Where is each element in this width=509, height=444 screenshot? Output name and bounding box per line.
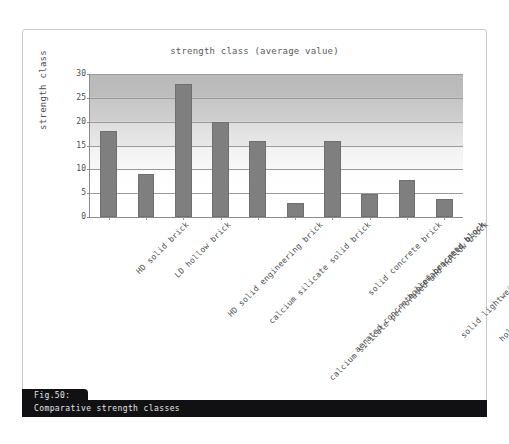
y-tick-label: 15 (76, 142, 86, 150)
y-tick-mark (87, 122, 90, 123)
bar (361, 194, 378, 217)
gridline (90, 98, 463, 99)
y-tick-mark (87, 146, 90, 147)
x-axis-labels: HD solid brickLD hollow brickHD solid en… (89, 220, 463, 370)
bar (324, 141, 341, 217)
bar (249, 141, 266, 217)
y-tick-mark (87, 169, 90, 170)
gridline (90, 74, 463, 75)
chart-frame: strength class (average value) strength … (22, 29, 487, 415)
gridline (90, 169, 463, 170)
bar (436, 199, 453, 217)
y-tick-label: 25 (76, 94, 86, 102)
figure-page: strength class (average value) strength … (0, 0, 509, 444)
y-tick-mark (87, 217, 90, 218)
x-axis-category-label: solid concrete brick (367, 220, 444, 297)
x-axis-category-label: hollow lightweight concrete block (498, 220, 509, 343)
y-tick-label: 10 (76, 165, 86, 173)
x-axis-category-label: calcium silicate solid brick (267, 220, 373, 326)
y-tick-label: 0 (81, 213, 86, 221)
y-tick-label: 5 (81, 189, 86, 197)
bar (399, 180, 416, 217)
gridline (90, 146, 463, 147)
bar (138, 174, 155, 217)
y-tick-mark (87, 98, 90, 99)
bar (287, 203, 304, 217)
figure-caption-bar: Fig.50: Comparative strength classes (22, 389, 487, 417)
gridline (90, 122, 463, 123)
bar (212, 122, 229, 217)
y-tick-mark (87, 193, 90, 194)
bar (100, 131, 117, 217)
x-axis-category-label: hollow concrete block (406, 220, 487, 301)
bar (175, 84, 192, 217)
x-axis-category-label: HD solid engineering brick (226, 220, 325, 319)
figure-number: Fig.50: (34, 390, 71, 401)
plot-area: 051015202530 (89, 74, 463, 218)
y-tick-mark (87, 74, 90, 75)
y-tick-label: 30 (76, 70, 86, 78)
y-tick-label: 20 (76, 118, 86, 126)
chart-title: strength class (average value) (23, 46, 486, 56)
figure-caption-text: Comparative strength classes (34, 402, 180, 415)
y-axis-title: strength class (38, 50, 48, 130)
